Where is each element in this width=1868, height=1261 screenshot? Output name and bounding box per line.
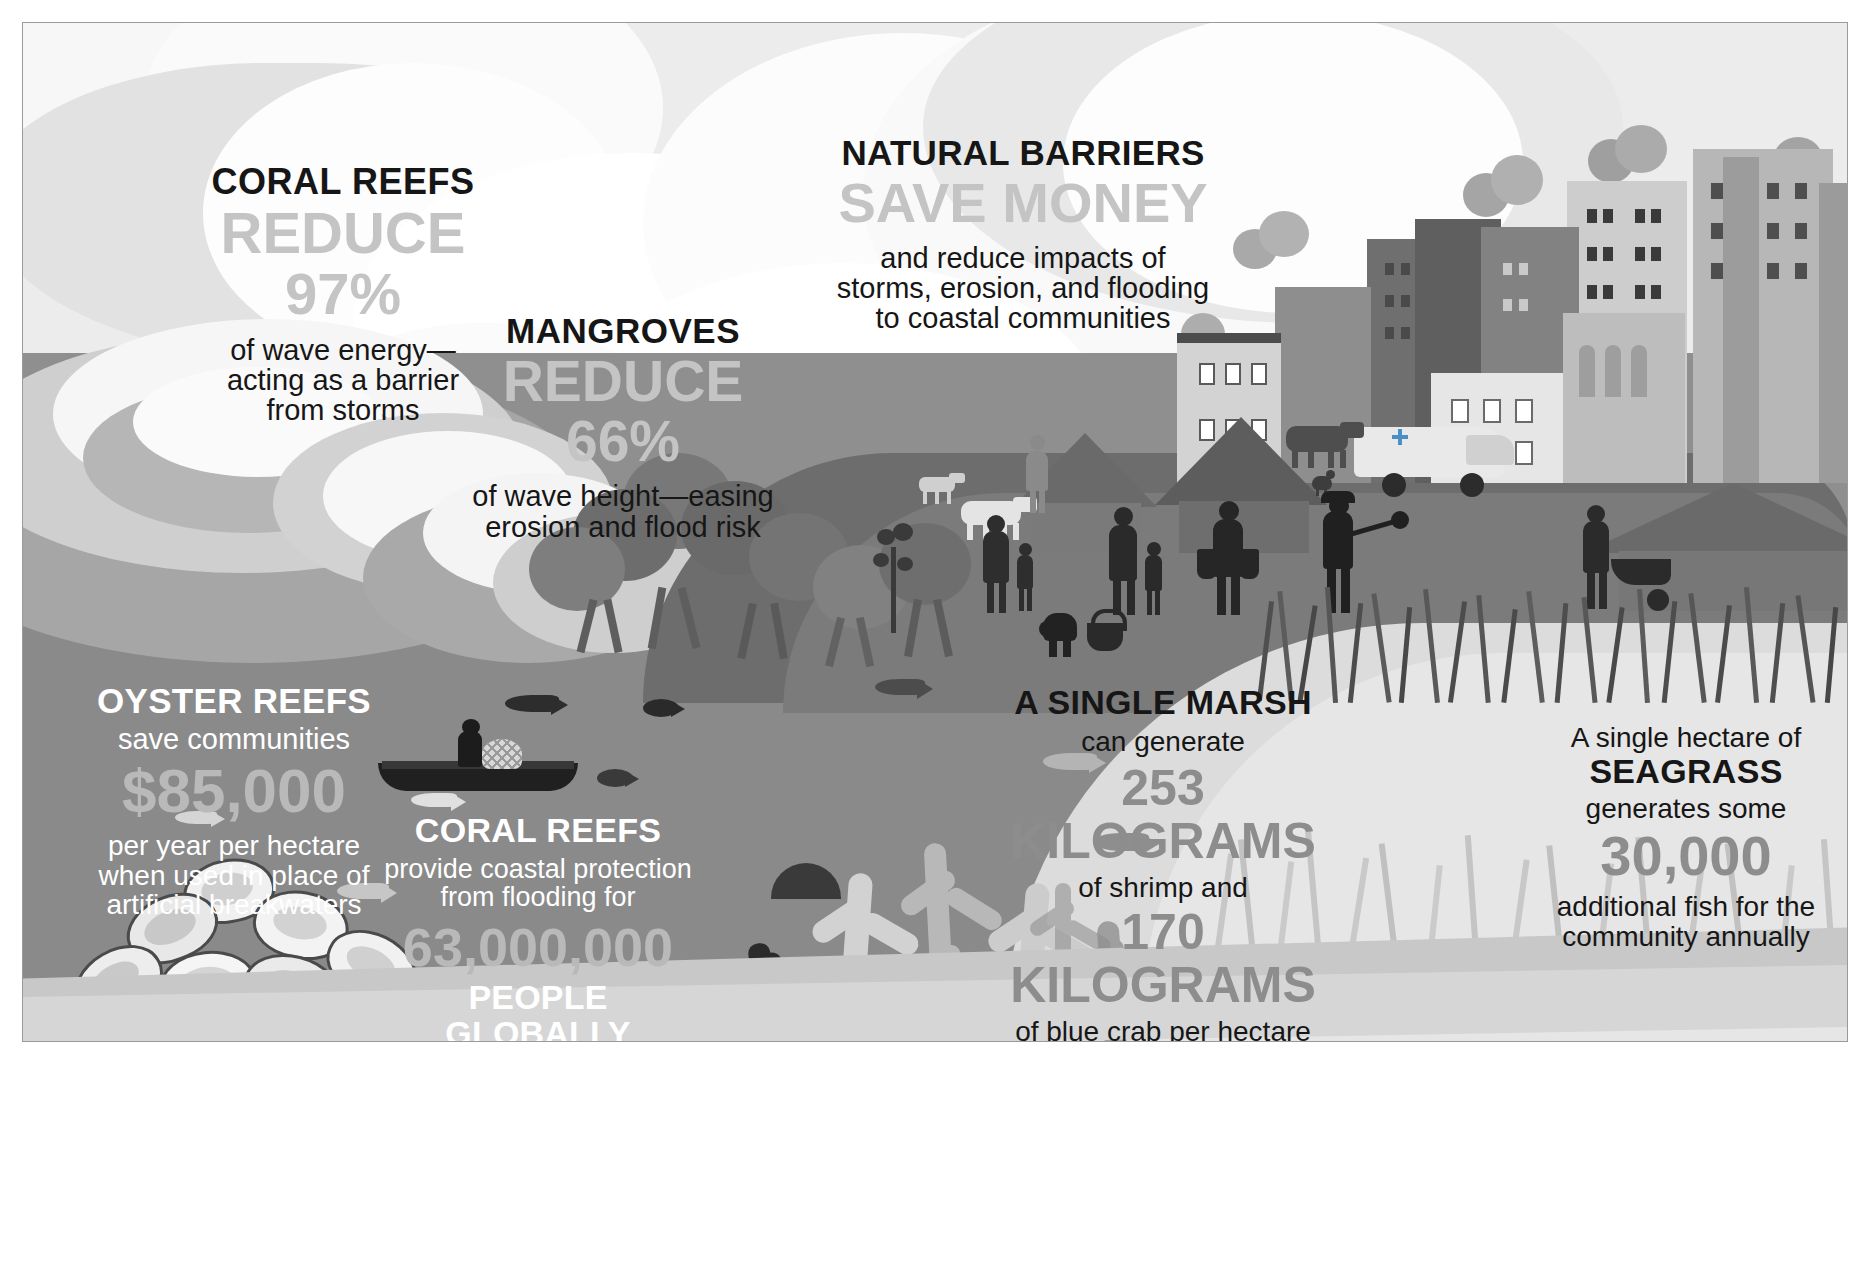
seagrass-intro: A single hectare of — [1541, 723, 1831, 752]
marsh-headline-2: 170 KILOGRAMS — [983, 906, 1343, 1011]
coral-flood-headline: 63,000,000 — [373, 919, 703, 976]
marsh-mid-line: of shrimp and — [983, 873, 1343, 902]
text-block-natural-barriers: NATURAL BARRIERS SAVE MONEY and reduce i… — [833, 135, 1213, 334]
cow-silhouette-upper — [1278, 418, 1368, 468]
mangroves-body-2: erosion and flood risk — [453, 512, 793, 542]
natural-barriers-headline: SAVE MONEY — [833, 174, 1213, 233]
marsh-headline-1: 253 KILOGRAMS — [983, 762, 1343, 867]
seagrass-body-2: community annually — [1541, 922, 1831, 951]
oyster-kicker: OYSTER REEFS — [69, 683, 399, 720]
oyster-subhead: save communities — [69, 724, 399, 754]
marsh-footer: of blue crab per hectare — [983, 1017, 1343, 1042]
natural-barriers-kicker: NATURAL BARRIERS — [833, 135, 1213, 172]
marsh-kicker: A SINGLE MARSH — [983, 685, 1343, 721]
mangroves-headline: REDUCE 66% — [453, 352, 793, 472]
seagrass-subhead: generates some — [1541, 794, 1831, 823]
text-block-coral-reefs-flooding: CORAL REEFS provide coastal protection f… — [373, 813, 703, 1042]
seagrass-kicker: SEAGRASS — [1541, 754, 1831, 790]
coral-flood-body-1: provide coastal protection — [373, 855, 703, 883]
person-standing-shore — [1023, 433, 1053, 513]
mangroves-kicker: MANGROVES — [453, 313, 793, 350]
oyster-body-2: when used in place of — [69, 861, 399, 890]
oyster-headline: $85,000 — [69, 758, 399, 823]
marsh-subhead: can generate — [983, 727, 1343, 756]
coral-flood-kicker: CORAL REEFS — [373, 813, 703, 849]
text-block-seagrass: A single hectare of SEAGRASS generates s… — [1541, 723, 1831, 951]
natural-barriers-body-3: to coastal communities — [833, 303, 1213, 333]
natural-barriers-body-1: and reduce impacts of — [833, 243, 1213, 273]
oyster-body-1: per year per hectare — [69, 831, 399, 860]
text-block-mangroves: MANGROVES REDUCE 66% of wave height—easi… — [453, 313, 793, 542]
infographic-frame: CORAL REEFS REDUCE 97% of wave energy— a… — [22, 22, 1848, 1042]
text-block-single-marsh: A SINGLE MARSH can generate 253 KILOGRAM… — [983, 685, 1343, 1042]
coral-flood-footer: PEOPLE GLOBALLY — [373, 980, 703, 1042]
infographic-canvas: CORAL REEFS REDUCE 97% of wave energy— a… — [0, 0, 1868, 1261]
seagrass-body-1: additional fish for the — [1541, 892, 1831, 921]
mangroves-body-1: of wave height—easing — [453, 481, 793, 511]
text-block-oyster-reefs: OYSTER REEFS save communities $85,000 pe… — [69, 683, 399, 919]
oyster-body-3: artificial breakwaters — [69, 890, 399, 919]
sapling-planting — [871, 523, 915, 633]
natural-barriers-body-2: storms, erosion, and flooding — [833, 273, 1213, 303]
coral-wave-headline: REDUCE 97% — [173, 203, 513, 325]
ambulance-vehicle — [1348, 413, 1548, 503]
seagrass-headline: 30,000 — [1541, 827, 1831, 886]
coral-wave-kicker: CORAL REEFS — [173, 163, 513, 201]
coral-flood-body-2: from flooding for — [373, 883, 703, 911]
